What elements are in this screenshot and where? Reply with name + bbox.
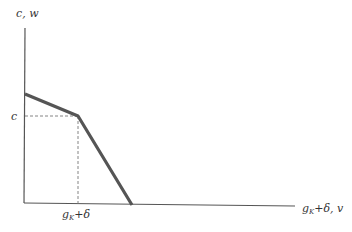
- c-level-label: c: [11, 110, 17, 123]
- x-axis-label-rest: +δ, v: [314, 202, 344, 215]
- x-axis: [24, 203, 295, 206]
- kinked-curve: [25, 94, 132, 205]
- kinked-curve-diagram: c, w c gK+δ gK+δ, v: [0, 0, 352, 232]
- kink-x-label-main: g: [62, 208, 69, 221]
- y-axis: [24, 28, 25, 203]
- kink-x-label-rest: +δ: [74, 208, 90, 221]
- x-axis-label-main: g: [302, 202, 309, 215]
- kink-x-label: gK+δ: [62, 208, 90, 222]
- y-axis-label: c, w: [16, 7, 39, 20]
- x-axis-label: gK+δ, v: [302, 202, 344, 216]
